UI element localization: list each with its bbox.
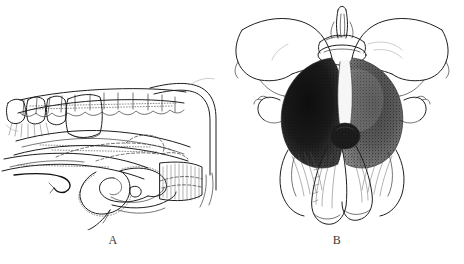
panel-b-illustration (228, 0, 464, 235)
spinous-process (331, 6, 353, 38)
panel-b-drawing (228, 0, 464, 235)
figure-page: A B (0, 0, 464, 264)
figure-label-b: B (327, 233, 347, 248)
lateral-process-left (254, 96, 284, 123)
hook-probe (14, 174, 70, 193)
hatched-fascial-band (160, 162, 202, 201)
panel-a-illustration (0, 55, 232, 230)
suture-thread (86, 210, 110, 230)
panel-a-drawing (0, 55, 232, 230)
background-wash (6, 78, 214, 131)
figure-label-a: A (103, 233, 123, 248)
coiled-tubular-structure (79, 167, 167, 216)
lateral-process-right (400, 96, 430, 123)
central-nodule (330, 123, 360, 149)
transverse-process (319, 35, 366, 53)
